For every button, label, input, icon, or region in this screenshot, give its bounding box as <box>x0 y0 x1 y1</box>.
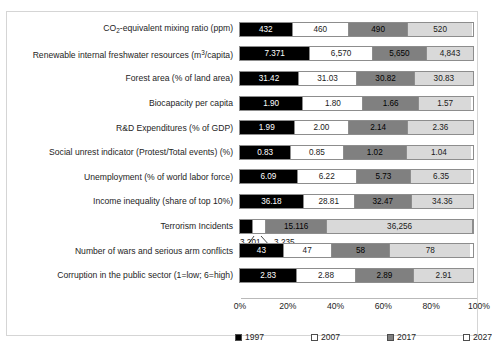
bar-segment-2007: 31.03 <box>299 72 357 85</box>
stacked-bar: 36.1828.8132.4734.36 <box>239 194 474 209</box>
bar-segment-value: 1.80 <box>325 99 341 108</box>
bar-segment-value: 2.14 <box>370 123 386 132</box>
bar-segment-2027: 4,843 <box>427 47 473 60</box>
bar-segment-value: 1.66 <box>383 99 399 108</box>
bar-segment-value: 30.82 <box>375 74 396 83</box>
stacked-bar: 6.096.225.736.35 <box>239 169 474 184</box>
bar-segment-2007: 6.22 <box>298 170 357 183</box>
chart-row: Biocapacity per capita1.901.801.661.57 <box>7 91 477 116</box>
bar-segment-1997: 6.09 <box>240 170 298 183</box>
row-label: Forest area (% of land area) <box>7 73 239 83</box>
bar-segment-2017: 30.82 <box>357 72 415 85</box>
bar-segment-value: 520 <box>433 25 447 34</box>
bar-segment-2027: 36,256 <box>327 220 473 233</box>
row-label: Income inequality (share of top 10%) <box>7 196 239 206</box>
bar-segment-value: 47 <box>303 246 312 255</box>
bar-segment-2007: 2.88 <box>297 269 355 282</box>
bar-segment-value: 0.85 <box>309 148 325 157</box>
bar-segment-value: 6.35 <box>433 172 449 181</box>
bar-segment-value: 34.36 <box>432 197 453 206</box>
chart-row: Social unrest indicator (Protest/Total e… <box>7 140 477 165</box>
x-axis-tick: 40% <box>327 301 344 311</box>
bar-segment-2017: 490 <box>349 23 409 36</box>
row-label: Renewable internal freshwater resources … <box>7 48 239 60</box>
bar-segment-value: 5.73 <box>375 172 391 181</box>
bar-segment-1997: 36.18 <box>240 195 304 208</box>
legend-swatch-icon <box>387 334 394 341</box>
row-label: Social unrest indicator (Protest/Total e… <box>7 147 239 157</box>
row-label: Biocapacity per capita <box>7 98 239 108</box>
stacked-bar: 1.992.002.142.36 <box>239 120 474 135</box>
bar-segment-value: 1.57 <box>437 99 453 108</box>
bar-segment-2007: 3,235 <box>253 220 266 233</box>
bar-segment-value: 2.36 <box>432 123 448 132</box>
bar-segment-1997: 43 <box>240 244 284 257</box>
bar-segment-value: 1.04 <box>431 148 447 157</box>
chart-legend: 1997200720172027 <box>235 332 485 344</box>
chart-row: Corruption in the public sector (1=low; … <box>7 263 477 288</box>
bar-segment-2007: 2.00 <box>295 121 350 134</box>
legend-swatch-icon <box>235 334 242 341</box>
bar-segment-value: 36.18 <box>261 197 282 206</box>
legend-label: 2007 <box>321 332 340 342</box>
chart-row: Income inequality (share of top 10%)36.1… <box>7 189 477 214</box>
bar-segment-2007: 6,570 <box>310 47 373 60</box>
legend-item-2007[interactable]: 2007 <box>311 332 340 342</box>
bar-segment-value: 0.83 <box>257 148 273 157</box>
row-label: Number of wars and serious arm conflicts <box>7 246 239 256</box>
x-axis-tick: 0% <box>234 301 246 311</box>
bar-segment-2017: 2.14 <box>349 121 408 134</box>
legend-item-1997[interactable]: 1997 <box>235 332 264 342</box>
bar-segment-value: 31.03 <box>317 74 338 83</box>
bar-segment-2027: 1.57 <box>419 97 471 110</box>
bar-segment-2027: 34.36 <box>412 195 473 208</box>
bar-segment-2007: 47 <box>284 244 332 257</box>
bar-segment-1997: 31.42 <box>240 72 299 85</box>
stacked-bar: 0.830.851.021.04 <box>239 145 474 160</box>
bar-segment-value: 2.91 <box>436 271 452 280</box>
bar-segment-value: 6.09 <box>260 172 276 181</box>
bar-segment-value: 2.83 <box>260 271 276 280</box>
bar-segment-value: 4,843 <box>440 49 461 58</box>
x-axis: 0%20%40%60%80%100% <box>240 301 479 317</box>
bar-segment-2017: 1.66 <box>363 97 418 110</box>
bar-segment-2007: 28.81 <box>304 195 355 208</box>
bar-segment-2027: 2.36 <box>408 121 473 134</box>
stacked-bar: 3,2013,23515.11636,2563,2013,235 <box>239 219 474 234</box>
stacked-bar: 31.4231.0330.8230.83 <box>239 71 474 86</box>
bar-segment-2017: 1.02 <box>344 146 407 159</box>
legend-label: 2017 <box>397 332 416 342</box>
bar-segment-1997: 0.83 <box>240 146 291 159</box>
stacked-bar: 1.901.801.661.57 <box>239 96 474 111</box>
bar-segment-1997: 1.90 <box>240 97 303 110</box>
x-axis-tick: 100% <box>468 301 490 311</box>
bar-segment-2017: 2.89 <box>356 269 414 282</box>
bar-segment-2007: 0.85 <box>291 146 343 159</box>
row-label: R&D Expenditures (% of GDP) <box>7 123 239 133</box>
stacked-bar: 432460490520 <box>239 22 474 37</box>
bar-segment-2017: 58 <box>332 244 391 257</box>
bar-segment-2017: 5.73 <box>357 170 411 183</box>
bar-segment-2027: 2.91 <box>414 269 473 282</box>
bar-segment-1997: 2.83 <box>240 269 297 282</box>
bar-segment-1997: 3,201 <box>240 220 253 233</box>
row-label: Terrorism Incidents <box>7 221 239 231</box>
stacked-bar: 43475878 <box>239 243 474 258</box>
bar-segment-2007: 1.80 <box>303 97 363 110</box>
legend-label: 2027 <box>473 332 492 342</box>
bar-segment-value: 5,650 <box>389 49 410 58</box>
chart-row: CO2-equivalent mixing ratio (ppm)4324604… <box>7 17 477 42</box>
bar-segment-value: 30.83 <box>434 74 455 83</box>
chart-row: Renewable internal freshwater resources … <box>7 42 477 67</box>
chart-row: Number of wars and serious arm conflicts… <box>7 238 477 263</box>
bar-segment-2017: 5,650 <box>373 47 427 60</box>
x-axis-tick: 60% <box>375 301 392 311</box>
bar-segment-value: 6.22 <box>319 172 335 181</box>
bar-segment-value: 1.90 <box>263 99 279 108</box>
bar-segment-1997: 1.99 <box>240 121 295 134</box>
bar-segment-2017: 15.116 <box>266 220 327 233</box>
legend-item-2027[interactable]: 2027 <box>463 332 492 342</box>
legend-item-2017[interactable]: 2017 <box>387 332 416 342</box>
bar-segment-value: 460 <box>313 25 327 34</box>
bar-segment-value: 6,570 <box>331 49 352 58</box>
